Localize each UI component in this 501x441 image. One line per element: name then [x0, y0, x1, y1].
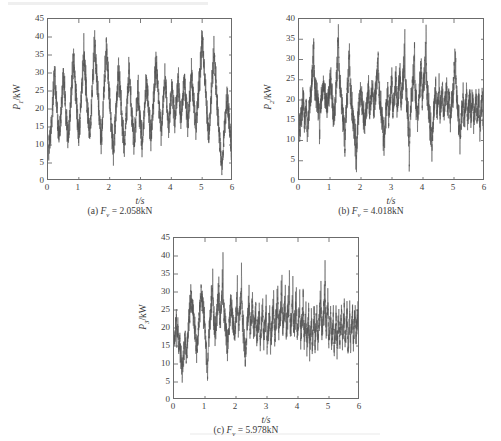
y-tick-label: 10 — [0, 140, 44, 149]
figure-panel-b: P2/kW 0510152025303540 0123456 t/s (b) F… — [253, 0, 501, 218]
x-tick-label: 4 — [412, 183, 432, 192]
x-tick-label: 5 — [318, 402, 338, 411]
x-axis-label-a: t/s — [100, 196, 180, 206]
y-tick-label: 25 — [0, 86, 44, 95]
y-tick-label: 10 — [122, 359, 170, 368]
y-tick-label: 20 — [0, 104, 44, 113]
x-tick-label: 1 — [68, 183, 88, 192]
y-tick-label: 45 — [122, 233, 170, 242]
panel-caption-b: (b) Fv = 4.018kN — [311, 206, 431, 220]
caption-prefix-c: (c) — [214, 425, 225, 435]
x-tick-label: 4 — [287, 402, 307, 411]
caption-value-c: = 5.978kN — [238, 425, 279, 435]
y-tick-label: 5 — [253, 155, 295, 164]
y-tick-label: 10 — [253, 135, 295, 144]
caption-subscript-b: v — [358, 211, 361, 218]
y-tick-label: 35 — [0, 50, 44, 59]
x-tick-label: 4 — [160, 183, 180, 192]
x-axis-label-c: t/s — [226, 415, 306, 425]
y-tick-label: 35 — [122, 269, 170, 278]
caption-prefix-b: (b) — [338, 206, 349, 216]
plot-area-c — [173, 237, 359, 399]
x-tick-label: 6 — [222, 183, 242, 192]
figure-panel-c: P3/kW 051015202530354045 0123456 t/s (c)… — [122, 222, 382, 441]
x-tick-label: 6 — [474, 183, 494, 192]
plot-line-b — [299, 19, 484, 180]
x-tick-label: 0 — [163, 402, 183, 411]
x-tick-label: 2 — [99, 183, 119, 192]
plot-area-b — [298, 18, 484, 180]
caption-value-b: = 4.018kN — [363, 206, 404, 216]
y-tick-label: 15 — [0, 122, 44, 131]
x-tick-label: 3 — [381, 183, 401, 192]
y-tick-label: 5 — [0, 158, 44, 167]
y-axis-symbol-b: P — [263, 104, 273, 110]
x-tick-label: 6 — [349, 402, 369, 411]
y-tick-label: 25 — [253, 74, 295, 83]
caption-prefix-a: (a) — [88, 206, 99, 216]
y-tick-label: 20 — [253, 95, 295, 104]
plot-line-c — [174, 238, 359, 399]
x-tick-label: 3 — [130, 183, 150, 192]
x-tick-label: 1 — [194, 402, 214, 411]
caption-subscript-c: v — [232, 430, 235, 437]
y-axis-label-c: P3/kW — [138, 292, 152, 342]
y-tick-label: 15 — [253, 115, 295, 124]
x-tick-label: 5 — [443, 183, 463, 192]
x-tick-label: 5 — [191, 183, 211, 192]
panel-caption-a: (a) Fv = 2.058kN — [60, 206, 180, 220]
y-tick-label: 40 — [253, 14, 295, 23]
panel-caption-c: (c) Fv = 5.978kN — [186, 425, 306, 439]
x-tick-label: 0 — [37, 183, 57, 192]
y-tick-label: 30 — [0, 68, 44, 77]
x-tick-label: 3 — [256, 402, 276, 411]
plot-area-a — [47, 18, 232, 180]
y-tick-label: 25 — [122, 305, 170, 314]
y-tick-label: 20 — [122, 323, 170, 332]
y-tick-label: 30 — [253, 54, 295, 63]
x-tick-label: 0 — [288, 183, 308, 192]
x-tick-label: 2 — [225, 402, 245, 411]
y-axis-label-a: P1/kW — [12, 72, 26, 122]
caption-value-a: = 2.058kN — [112, 206, 153, 216]
y-tick-label: 35 — [253, 34, 295, 43]
y-tick-label: 30 — [122, 287, 170, 296]
y-tick-label: 45 — [0, 14, 44, 23]
y-tick-label: 40 — [0, 32, 44, 41]
x-tick-label: 2 — [350, 183, 370, 192]
y-tick-label: 5 — [122, 377, 170, 386]
x-axis-label-b: t/s — [351, 196, 431, 206]
y-tick-label: 15 — [122, 341, 170, 350]
caption-subscript-a: v — [106, 211, 109, 218]
figure-panel-a: P1/kW 051015202530354045 0123456 t/s (a)… — [0, 0, 250, 218]
y-tick-label: 40 — [122, 251, 170, 260]
plot-line-a — [48, 19, 232, 180]
x-tick-label: 1 — [319, 183, 339, 192]
